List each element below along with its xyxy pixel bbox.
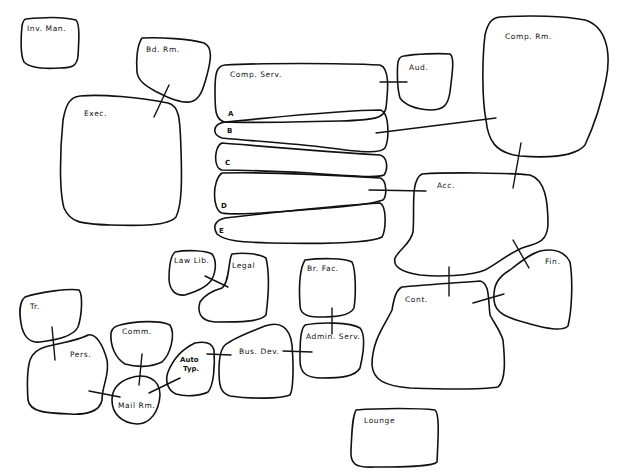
room-mail-rm: Mail Rm. (112, 376, 160, 424)
link-compservd-acc (369, 190, 426, 191)
link-tr-pers (52, 327, 55, 360)
room-exec: Exec. (61, 95, 182, 225)
label-exec: Exec. (84, 109, 107, 118)
room-comp-rm: Comp. Rm. (483, 16, 608, 157)
label-inv-man: Inv. Man. (27, 24, 66, 33)
room-bus-dev: Bus. Dev. (219, 324, 293, 398)
label-aud: Aud. (409, 63, 428, 72)
room-cont: Cont. (372, 281, 504, 389)
label-comp-rm: Comp. Rm. (505, 32, 552, 41)
link-lawlib-legal (205, 276, 228, 287)
room-inv-man: Inv. Man. (21, 18, 79, 69)
bubble-diagram-canvas: Inv. Man. Bd. Rm. Exec. Comp. Serv. A B … (0, 0, 626, 475)
link-compservb-comprm (376, 118, 496, 133)
label-admin-serv: Admin. Serv. (306, 332, 361, 341)
room-fin: Fin. (494, 250, 572, 329)
label-mail-rm: Mail Rm. (118, 401, 155, 410)
room-tr: Tr. (20, 289, 82, 342)
label-auto-typ-line1: Auto (180, 356, 199, 364)
link-busdev-adminserv (283, 351, 312, 352)
link-comm-mailrm (139, 354, 142, 385)
label-tr: Tr. (29, 302, 40, 311)
label-comp-serv: Comp. Serv. (230, 70, 282, 79)
label-comp-serv-d: D (221, 202, 227, 210)
label-comm: Comm. (122, 327, 152, 336)
label-comp-serv-e: E (219, 227, 224, 235)
label-lounge: Lounge (364, 416, 395, 425)
link-autotyp-busdev (207, 354, 231, 355)
label-acc: Acc. (437, 181, 455, 190)
link-comprm-acc (513, 143, 521, 188)
bubble-diagram: Inv. Man. Bd. Rm. Exec. Comp. Serv. A B … (0, 0, 626, 475)
room-law-lib: Law Lib. (169, 251, 215, 295)
label-legal: Legal (232, 261, 255, 270)
label-fin: Fin. (545, 257, 560, 266)
label-comp-serv-a: A (228, 110, 234, 118)
label-auto-typ-line2: Typ. (183, 365, 199, 373)
label-law-lib: Law Lib. (174, 256, 210, 265)
room-lounge: Lounge (351, 409, 438, 468)
connections (52, 82, 529, 397)
label-comp-serv-b: B (227, 127, 232, 135)
label-bd-rm: Bd. Rm. (146, 45, 180, 54)
link-pers-mailrm (89, 391, 120, 397)
link-acc-fin (513, 240, 529, 268)
label-br-fac: Br. Fac. (307, 264, 339, 273)
room-auto-typ: Auto Typ. (167, 342, 215, 396)
room-br-fac: Br. Fac. (300, 259, 356, 317)
room-pers: Pers. (27, 335, 107, 414)
room-bd-rm: Bd. Rm. (137, 38, 211, 102)
label-pers: Pers. (70, 350, 91, 359)
label-bus-dev: Bus. Dev. (239, 347, 280, 356)
label-comp-serv-c: C (225, 159, 230, 167)
label-cont: Cont. (405, 295, 428, 304)
room-comp-serv: Comp. Serv. A B C D E (215, 64, 388, 244)
